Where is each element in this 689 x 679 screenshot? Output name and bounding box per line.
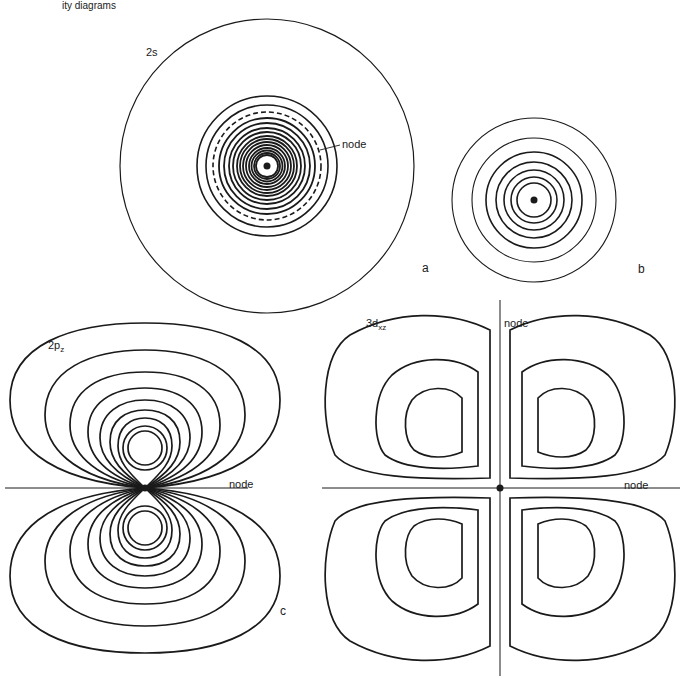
label-node-horizontal: node [624, 480, 648, 491]
nucleus-dot-a [264, 163, 271, 170]
lobe-upper-left [325, 316, 490, 479]
nucleus-dot-c [142, 485, 149, 492]
caption-fragment: ity diagrams [62, 1, 116, 11]
nucleus-dot-d [497, 485, 504, 492]
nucleus-dot-b [531, 197, 538, 204]
label-3dxz-sub: xz [378, 323, 386, 332]
panel-letter-a: a [422, 262, 429, 274]
label-node-vertical: node [504, 318, 528, 329]
label-3dxz-main: 3d [366, 317, 378, 329]
label-3dxz: 3dxz [366, 318, 386, 329]
label-2s: 2s [146, 47, 158, 58]
label-2pz-sub: z [60, 345, 64, 354]
label-2pz: 2pz [48, 340, 64, 351]
lower-lobe [10, 488, 280, 653]
orbital-contour-figure [0, 0, 689, 679]
label-node-a: node [342, 139, 366, 150]
lobe-lower-right [510, 497, 675, 660]
lobe-lower-left [325, 497, 490, 660]
label-2pz-main: 2p [48, 339, 60, 351]
panel-letter-c: c [280, 605, 286, 617]
label-node-c: node [229, 479, 253, 490]
lobe-upper-right [510, 316, 675, 479]
panel-letter-b: b [638, 263, 645, 275]
